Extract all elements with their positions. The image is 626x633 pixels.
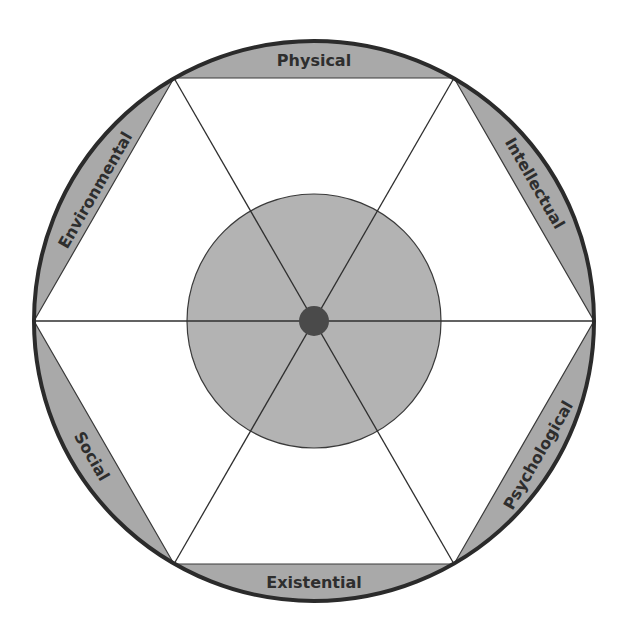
center-hub — [299, 306, 329, 336]
segment-label-existential: Existential — [266, 573, 362, 592]
wellness-wheel-diagram: Physical Intellectual Psychological Exis… — [0, 0, 626, 633]
segment-label-physical: Physical — [277, 51, 351, 70]
